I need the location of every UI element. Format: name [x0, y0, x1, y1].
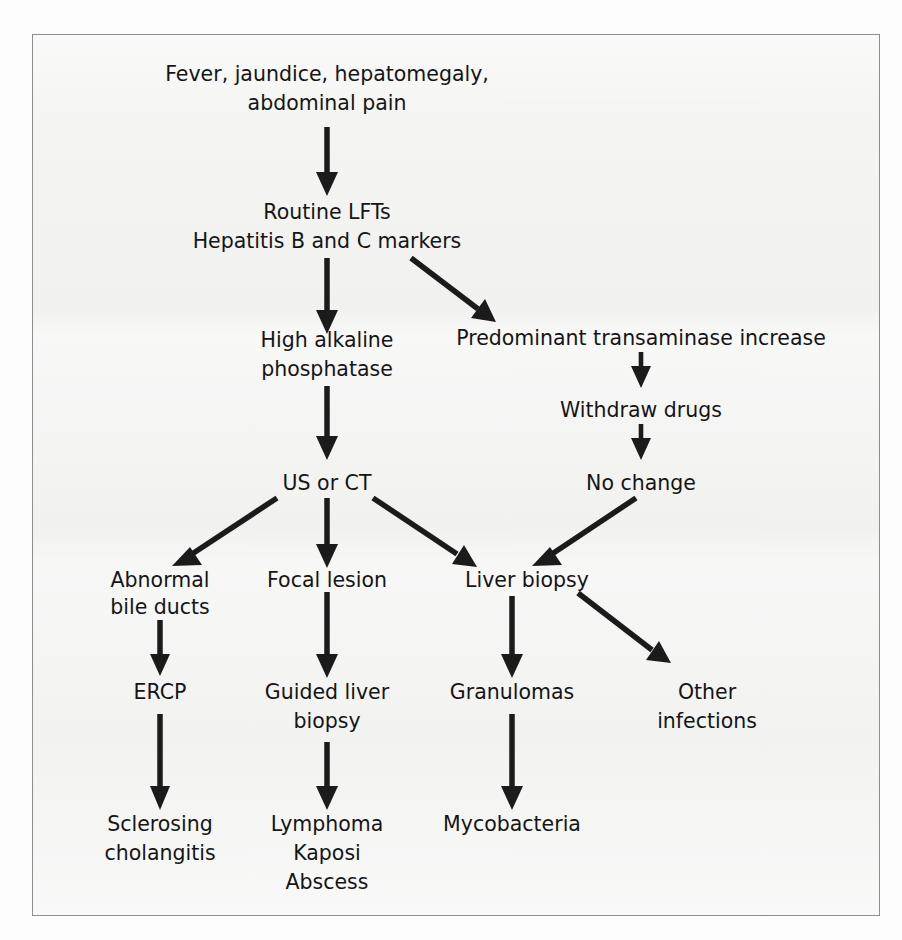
- node-symptoms-line-1: Fever, jaundice, hepatomegaly,: [165, 62, 489, 86]
- node-bileducts-line-1: Abnormal: [111, 568, 210, 592]
- node-no-change: No change: [586, 471, 696, 495]
- node-granulomas-line-1: Granulomas: [450, 680, 574, 704]
- node-tests-line-1: Routine LFTs: [263, 200, 390, 224]
- node-lymphoma-kaposi-abscess: Lymphoma Kaposi Abscess: [271, 812, 384, 894]
- page-canvas: Fever, jaundice, hepatomegaly, abdominal…: [0, 0, 902, 940]
- node-ercp: ERCP: [134, 680, 187, 704]
- node-predominant-transaminase-increase: Predominant transaminase increase: [456, 326, 826, 350]
- node-guided-line-2: biopsy: [293, 709, 360, 733]
- node-nochange-line-1: No change: [586, 471, 696, 495]
- node-lymphoma-line-3: Abscess: [286, 870, 369, 894]
- edge-guided-to-lymphoma: [316, 742, 338, 810]
- node-us-or-ct: US or CT: [283, 471, 372, 495]
- edge-liverbiopsy-to-otherinf: [578, 593, 671, 663]
- node-otherinf-line-1: Other: [678, 680, 737, 704]
- edge-withdraw-to-nochange: [631, 424, 651, 460]
- edge-usct-to-liverbiopsy: [373, 498, 477, 567]
- edge-transaminase-to-withdraw: [631, 352, 651, 388]
- node-liver-biopsy: Liver biopsy: [465, 568, 589, 592]
- edge-tests-to-alp: [316, 258, 338, 334]
- edge-symptoms-to-tests: [316, 127, 338, 196]
- node-transaminase-line-1: Predominant transaminase increase: [456, 326, 826, 350]
- node-other-infections: Other infections: [657, 680, 757, 733]
- edge-nochange-to-liverbiopsy: [532, 498, 636, 566]
- edge-bileducts-to-ercp: [150, 620, 170, 676]
- node-guided-liver-biopsy: Guided liver biopsy: [265, 680, 390, 733]
- node-alp-line-1: High alkaline: [261, 328, 394, 352]
- node-granulomas: Granulomas: [450, 680, 574, 704]
- node-withdraw-line-1: Withdraw drugs: [560, 398, 722, 422]
- node-focal-line-1: Focal lesion: [267, 568, 387, 592]
- node-otherinf-line-2: infections: [657, 709, 757, 733]
- node-tests-line-2: Hepatitis B and C markers: [193, 229, 462, 253]
- node-mycobacteria: Mycobacteria: [443, 812, 581, 836]
- node-ercp-line-1: ERCP: [134, 680, 187, 704]
- edge-granulomas-to-mycobacteria: [501, 714, 523, 810]
- edge-usct-to-bileducts: [172, 498, 277, 566]
- node-alp-line-2: phosphatase: [261, 357, 393, 381]
- node-abnormal-bile-ducts: Abnormal bile ducts: [110, 568, 210, 619]
- node-lymphoma-line-2: Kaposi: [293, 841, 361, 865]
- node-guided-line-1: Guided liver: [265, 680, 390, 704]
- node-bileducts-line-2: bile ducts: [110, 595, 210, 619]
- node-focal-lesion: Focal lesion: [267, 568, 387, 592]
- edge-liverbiopsy-to-granulomas: [501, 596, 523, 678]
- edge-focal-to-guided: [316, 592, 338, 678]
- node-sclerosing-line-1: Sclerosing: [107, 812, 213, 836]
- edge-tests-to-transaminase: [411, 258, 496, 322]
- node-tests: Routine LFTs Hepatitis B and C markers: [193, 200, 462, 253]
- node-withdraw-drugs: Withdraw drugs: [560, 398, 722, 422]
- node-symptoms: Fever, jaundice, hepatomegaly, abdominal…: [165, 62, 489, 115]
- edge-alp-to-usct: [316, 386, 338, 460]
- flowchart: Fever, jaundice, hepatomegaly, abdominal…: [0, 0, 902, 940]
- edge-ercp-to-sclerosing: [150, 714, 170, 810]
- node-lymphoma-line-1: Lymphoma: [271, 812, 384, 836]
- node-mycobacteria-line-1: Mycobacteria: [443, 812, 581, 836]
- node-usct-line-1: US or CT: [283, 471, 372, 495]
- edge-usct-to-focal: [316, 498, 338, 568]
- node-liverbiopsy-line-1: Liver biopsy: [465, 568, 589, 592]
- node-sclerosing-cholangitis: Sclerosing cholangitis: [104, 812, 215, 865]
- node-high-alkaline-phosphatase: High alkaline phosphatase: [261, 328, 394, 381]
- node-symptoms-line-2: abdominal pain: [248, 91, 407, 115]
- node-sclerosing-line-2: cholangitis: [104, 841, 215, 865]
